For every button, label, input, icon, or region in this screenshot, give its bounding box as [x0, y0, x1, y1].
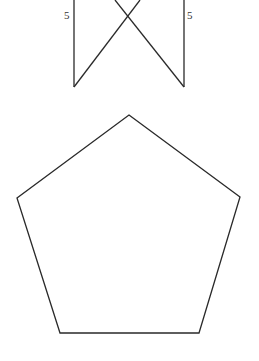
pentagon [17, 115, 240, 333]
crossed-figure: 5 5 [64, 0, 193, 87]
diagram-canvas: 5 5 [0, 0, 259, 361]
left-side-label: 5 [64, 9, 70, 21]
left-diagonal-edge [74, 0, 140, 87]
right-side-label: 5 [187, 9, 193, 21]
right-diagonal-edge [115, 0, 184, 87]
